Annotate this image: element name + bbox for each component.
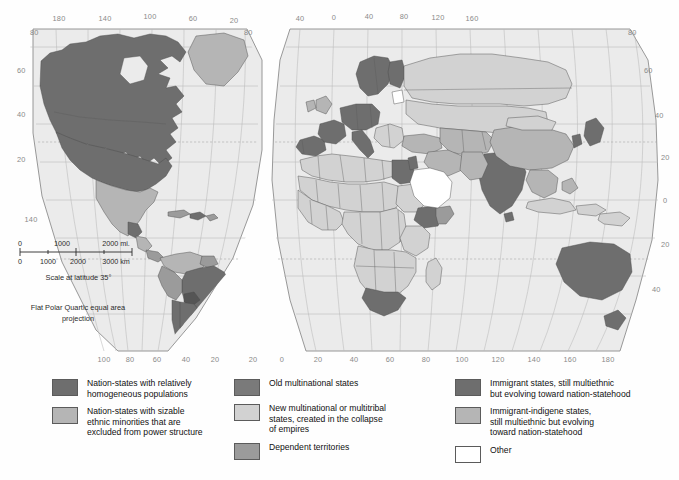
scale-tick-km: 0 (18, 257, 22, 266)
map-legend: Nation-states with relatively homogeneou… (0, 372, 679, 480)
axis-label: 20 (230, 16, 239, 25)
legend-swatch-sizable-minorities (52, 407, 78, 424)
legend-item: Nation-states with sizable ethnic minori… (52, 406, 252, 438)
scale-caption: Scale at latitude 35° (16, 273, 141, 282)
legend-swatch-old-multinational (234, 379, 260, 396)
axis-label: 60 (17, 66, 26, 75)
axis-label: 80 (400, 12, 409, 21)
scale-tick-mi: 0 (18, 239, 22, 248)
axis-label: 60 (153, 355, 162, 364)
legend-swatch-immigrant-multiethnic (455, 379, 481, 396)
legend-label: Nation-states with sizable ethnic minori… (87, 406, 203, 438)
legend-label: Dependent territories (269, 442, 349, 453)
projection-note: Flat Polar Quartic equal area projection (14, 303, 142, 324)
legend-swatch-dependent-territories (234, 443, 260, 460)
axis-label: 20 (211, 355, 220, 364)
axis-label: 40 (350, 355, 359, 364)
axis-label: 20 (661, 153, 670, 162)
axis-label: 60 (644, 66, 653, 75)
legend-item: Immigrant-indigene states, still multiet… (455, 406, 670, 438)
axis-label: 0 (663, 196, 667, 205)
legend-label: Old multinational states (269, 378, 358, 389)
axis-label: 80 (126, 355, 135, 364)
axis-label: 20 (17, 155, 26, 164)
axis-label: 180 (53, 14, 66, 23)
axis-label: 180 (602, 355, 615, 364)
legend-swatch-immigrant-indigene (455, 407, 481, 424)
legend-item: Dependent territories (234, 442, 444, 460)
legend-swatch-other (455, 446, 481, 463)
axis-label: 140 (99, 14, 112, 23)
legend-column-2: Old multinational states New multination… (234, 378, 444, 467)
legend-item: Nation-states with relatively homogeneou… (52, 378, 252, 399)
axis-label: 100 (98, 355, 111, 364)
axis-label: 40 (365, 12, 374, 21)
map-scale-bar: 0 1000 2000 mi. 0 1000 2000 3000 km Scal… (16, 236, 151, 282)
axis-label: 100 (456, 355, 469, 364)
axis-label: 20 (314, 355, 323, 364)
legend-item: New multinational or multitribal states,… (234, 403, 444, 435)
axis-label: 60 (189, 14, 198, 23)
axis-label: 100 (144, 12, 157, 21)
legend-column-1: Nation-states with relatively homogeneou… (52, 378, 252, 445)
axis-label: 20 (661, 240, 670, 249)
axis-label: 80 (30, 28, 39, 37)
legend-item: Old multinational states (234, 378, 444, 396)
legend-label: Nation-states with relatively homogeneou… (87, 378, 192, 399)
axis-label: 40 (655, 111, 664, 120)
scale-tick-km: 2000 (70, 257, 86, 266)
legend-column-3: Immigrant states, still multiethnic but … (455, 378, 670, 470)
east-hemisphere-panel: 40 0 40 80 120 160 80 60 40 20 0 20 40 2… (249, 12, 670, 364)
scale-tick-km: 1000 (40, 257, 56, 266)
axis-label: 40 (182, 355, 191, 364)
axis-label: 40 (296, 14, 305, 23)
scale-tick-km: 3000 km (102, 257, 130, 266)
axis-label: 140 (25, 215, 38, 224)
legend-label: Other (490, 445, 512, 456)
legend-label: Immigrant states, still multiethnic but … (490, 378, 630, 399)
legend-item: Other (455, 445, 670, 463)
axis-label: 160 (564, 355, 577, 364)
scale-tick-mi: 1000 (54, 239, 70, 248)
axis-label: 160 (466, 14, 479, 23)
legend-swatch-new-multinational (234, 404, 260, 421)
axis-label: 140 (528, 355, 541, 364)
axis-label: 120 (492, 355, 505, 364)
axis-label: 0 (332, 13, 336, 22)
axis-label: 120 (432, 13, 445, 22)
legend-swatch-homogeneous (52, 379, 78, 396)
axis-label: 60 (386, 355, 395, 364)
legend-label: New multinational or multitribal states,… (269, 403, 386, 435)
axis-label: 0 (280, 355, 284, 364)
axis-label: 80 (422, 355, 431, 364)
axis-label: 40 (17, 110, 26, 119)
axis-label: 80 (244, 28, 253, 37)
legend-item: Immigrant states, still multiethnic but … (455, 378, 670, 399)
map-figure: 180 140 100 60 20 80 60 40 20 80 140 100… (0, 0, 679, 480)
axis-label: 40 (652, 285, 661, 294)
legend-label: Immigrant-indigene states, still multiet… (490, 406, 594, 438)
scale-tick-mi: 2000 mi. (102, 239, 130, 248)
scale-bar-graphic: 0 1000 2000 mi. 0 1000 2000 3000 km (16, 236, 148, 270)
axis-label: 20 (249, 355, 258, 364)
world-map: 180 140 100 60 20 80 60 40 20 80 140 100… (0, 0, 679, 370)
axis-label: 80 (628, 28, 637, 37)
